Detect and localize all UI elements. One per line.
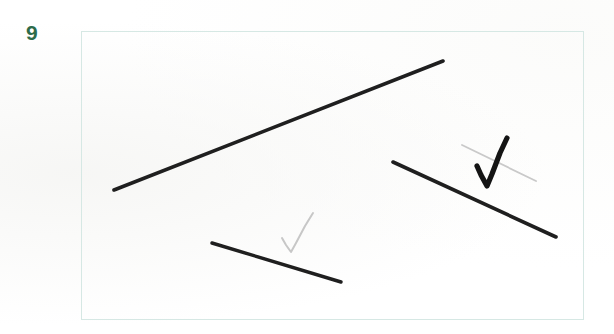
worksheet-page: 9 Question 9 answer box containing three… xyxy=(0,0,614,334)
answer-box[interactable] xyxy=(81,31,584,320)
question-number: 9 xyxy=(26,22,38,43)
